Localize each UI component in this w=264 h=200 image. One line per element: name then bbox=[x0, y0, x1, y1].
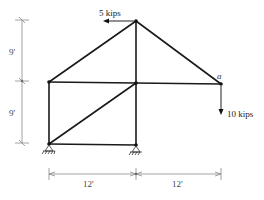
load-arrow-left-icon bbox=[103, 19, 134, 24]
vertical-dim-label-top: 9' bbox=[9, 47, 16, 57]
pin-support-right-icon bbox=[129, 146, 142, 155]
vertical-dim-label-bottom: 9' bbox=[9, 108, 16, 118]
load-label-10-kips: 10 kips bbox=[227, 109, 254, 119]
member-bottom-chord bbox=[49, 144, 136, 145]
horizontal-dimension bbox=[49, 168, 221, 180]
member-lower-diagonal bbox=[49, 83, 136, 144]
load-arrow-down-icon bbox=[219, 86, 224, 115]
pin-support-left-icon bbox=[42, 145, 55, 154]
horizontal-dim-label-right: 12' bbox=[172, 179, 183, 189]
member-left-diagonal-top bbox=[49, 21, 136, 82]
node-label-a: a bbox=[217, 71, 222, 81]
member-right-diagonal-top bbox=[136, 21, 221, 84]
truss-diagram: 9' 9' 12' 12' bbox=[0, 0, 264, 200]
load-label-5-kips: 5 kips bbox=[99, 8, 121, 18]
vertical-dimension bbox=[15, 17, 29, 146]
horizontal-dim-label-left: 12' bbox=[83, 179, 94, 189]
